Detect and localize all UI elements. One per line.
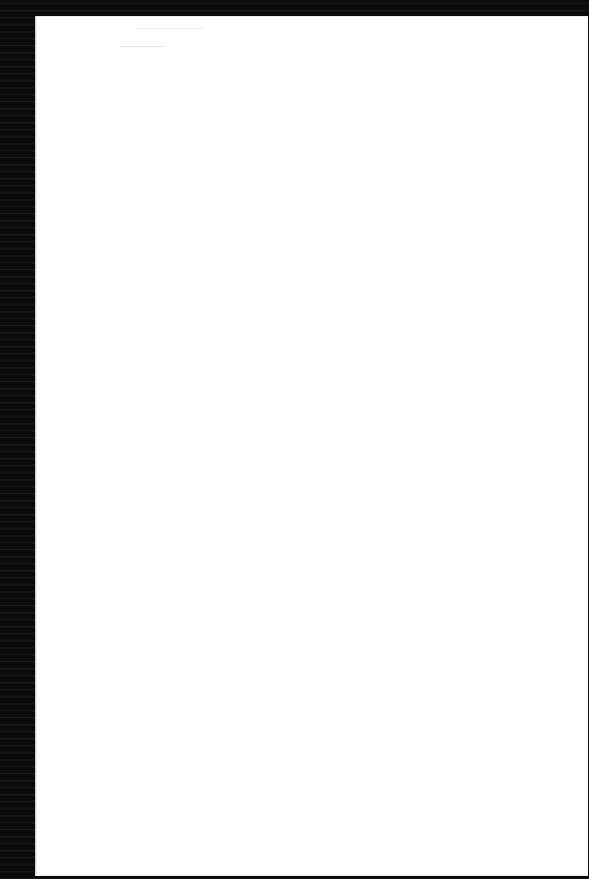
page-text	[35, 16, 36, 17]
blank-page	[35, 16, 588, 876]
faint-scan-mark	[120, 46, 165, 47]
faint-scan-mark	[135, 28, 205, 29]
